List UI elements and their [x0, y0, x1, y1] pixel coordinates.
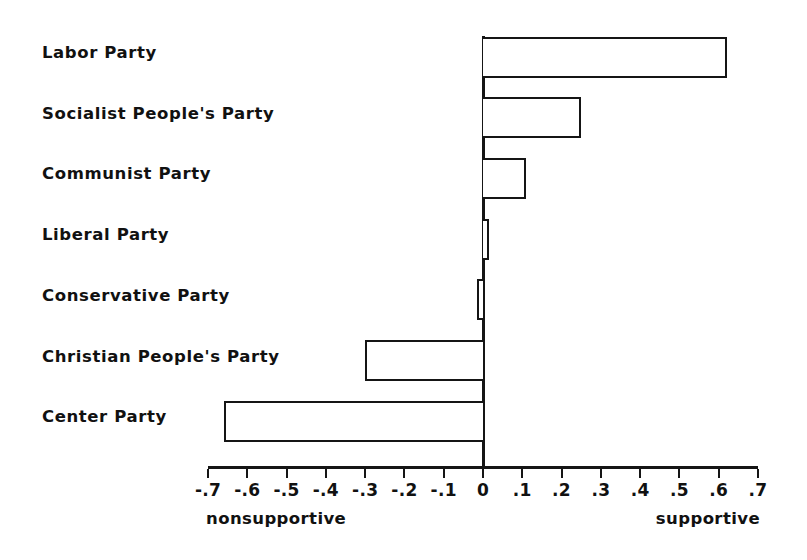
category-label: Liberal Party: [42, 225, 169, 244]
x-axis-tick-label: .7: [749, 480, 768, 500]
x-axis-tick: [403, 469, 405, 478]
x-axis-tick-label: .2: [552, 480, 571, 500]
x-axis-tick: [561, 469, 563, 478]
x-axis-tick-label: 0: [477, 480, 489, 500]
category-label: Conservative Party: [42, 285, 230, 304]
bar-center-party: [224, 401, 483, 442]
bar-socialist-people-s-party: [483, 97, 581, 138]
bar-conservative-party: [477, 279, 483, 320]
bar-liberal-party: [483, 219, 489, 260]
x-axis-tick: [600, 469, 602, 478]
x-axis-tick: [678, 469, 680, 478]
x-axis-tick: [718, 469, 720, 478]
x-axis-tick-label: .1: [513, 480, 532, 500]
x-axis-tick: [364, 469, 366, 478]
x-axis-tick: [757, 469, 759, 478]
category-label: Christian People's Party: [42, 346, 280, 365]
x-axis-tick: [246, 469, 248, 478]
x-axis-tick-label: .5: [670, 480, 689, 500]
chart-page: Labor PartySocialist People's PartyCommu…: [0, 0, 807, 560]
chart-plot-area: Labor PartySocialist People's PartyCommu…: [0, 0, 807, 560]
x-axis-tick-label: -.4: [313, 480, 339, 500]
x-axis-tick: [639, 469, 641, 478]
x-axis-tick: [521, 469, 523, 478]
x-axis-tick-label: -.5: [273, 480, 299, 500]
category-label: Center Party: [42, 407, 167, 426]
category-label: Socialist People's Party: [42, 103, 274, 122]
x-axis-tick-label: -.3: [352, 480, 378, 500]
x-axis-tick: [482, 469, 484, 478]
x-axis-tick: [325, 469, 327, 478]
axis-end-label-nonsupportive: nonsupportive: [206, 509, 346, 528]
x-axis-tick: [443, 469, 445, 478]
category-label: Communist Party: [42, 164, 211, 183]
bar-communist-party: [483, 158, 526, 199]
category-label: Labor Party: [42, 43, 157, 62]
x-axis-tick-label: -.2: [391, 480, 417, 500]
x-axis-tick: [207, 469, 209, 478]
bar-christian-people-s-party: [365, 340, 483, 381]
x-axis-tick-label: -.7: [195, 480, 221, 500]
bar-labor-party: [483, 37, 727, 78]
x-axis-tick-label: .3: [591, 480, 610, 500]
x-axis-tick-label: -.1: [431, 480, 457, 500]
x-axis-tick-label: .4: [631, 480, 650, 500]
x-axis-tick-label: .6: [709, 480, 728, 500]
x-axis-tick: [286, 469, 288, 478]
axis-end-label-supportive: supportive: [656, 509, 760, 528]
x-axis-tick-label: -.6: [234, 480, 260, 500]
